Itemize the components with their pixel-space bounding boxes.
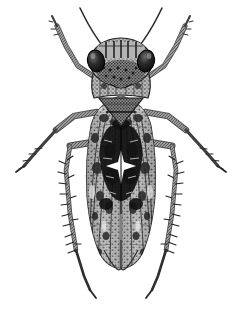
- illustration-plate: insect-dorsal-view: [0, 0, 240, 319]
- eye-highlight-left: [91, 53, 96, 59]
- insect-illustration: [0, 0, 240, 319]
- wing-dark-blotch: [99, 119, 143, 214]
- eye-highlight-right: [147, 53, 152, 59]
